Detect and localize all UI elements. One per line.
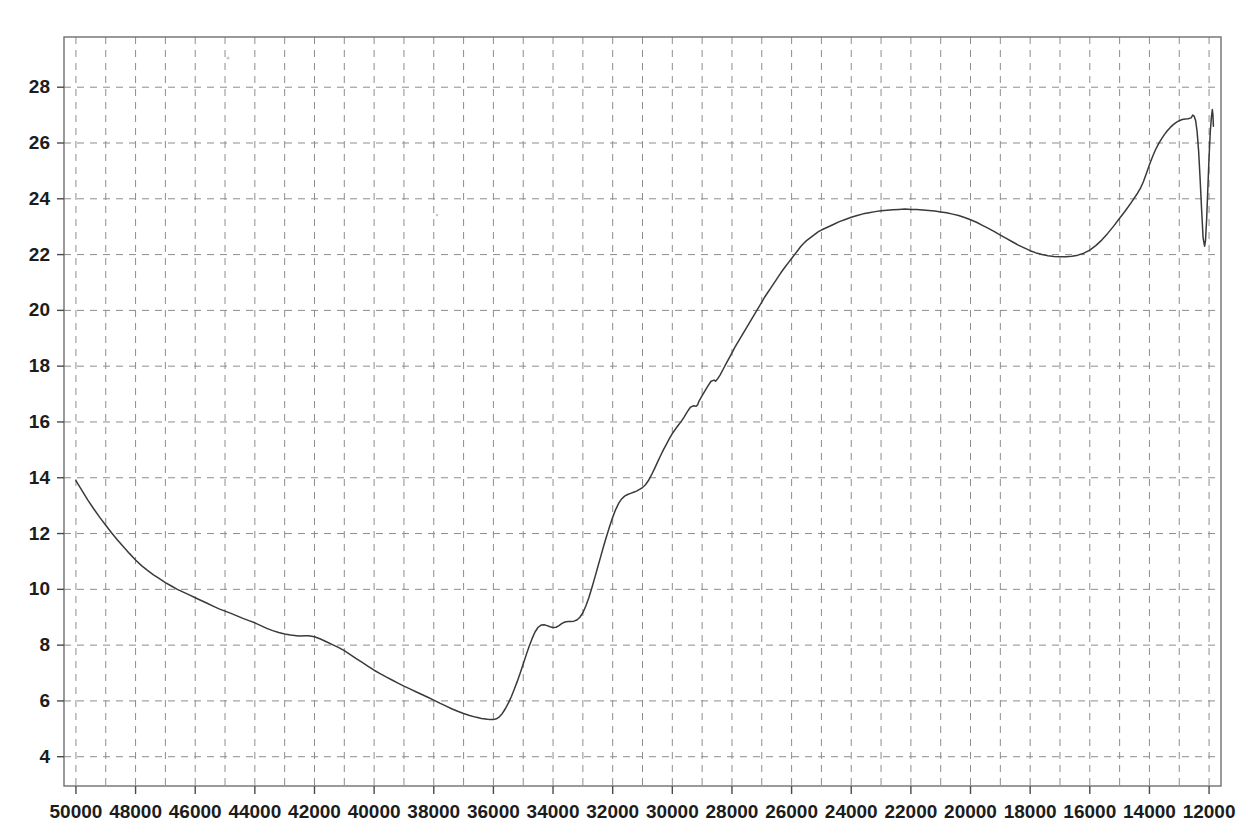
x-tick-label: 48000 (109, 801, 162, 822)
y-axis-tick-labels: 46810121416182022242628 (29, 76, 51, 766)
y-tick-label: 8 (39, 634, 50, 655)
y-tick-label: 26 (29, 132, 50, 153)
grid-lines-major-horizontal (64, 87, 1221, 756)
x-tick-label: 20000 (944, 801, 997, 822)
x-tick-label: 38000 (407, 801, 460, 822)
x-tick-label: 18000 (1004, 801, 1057, 822)
x-tick-label: 46000 (169, 801, 222, 822)
y-tick-label: 20 (29, 299, 50, 320)
x-axis-tick-labels: 5000048000460004400042000400003800036000… (50, 801, 1236, 822)
y-tick-label: 28 (29, 76, 50, 97)
y-tick-label: 10 (29, 578, 50, 599)
x-tick-label: 12000 (1183, 801, 1236, 822)
grid-lines-major-vertical (76, 37, 1209, 786)
data-series-line (76, 110, 1213, 720)
x-tick-label: 32000 (586, 801, 639, 822)
x-axis-ticks (76, 786, 1209, 794)
grid-lines-minor-vertical (106, 37, 1180, 786)
y-tick-label: 16 (29, 411, 50, 432)
x-tick-label: 36000 (467, 801, 520, 822)
y-tick-label: 18 (29, 355, 50, 376)
y-tick-label: 22 (29, 244, 50, 265)
y-tick-label: 4 (39, 746, 50, 767)
x-tick-label: 24000 (825, 801, 878, 822)
scan-speck (436, 214, 439, 217)
x-tick-label: 22000 (884, 801, 937, 822)
x-tick-label: 40000 (348, 801, 401, 822)
scan-speck (226, 56, 229, 59)
x-tick-label: 44000 (228, 801, 281, 822)
x-tick-label: 26000 (765, 801, 818, 822)
y-axis-ticks (57, 87, 64, 756)
chart-container: 46810121416182022242628 5000048000460004… (0, 0, 1248, 839)
y-tick-label: 24 (29, 188, 51, 209)
x-tick-label: 50000 (50, 801, 103, 822)
x-tick-label: 42000 (288, 801, 341, 822)
x-tick-label: 34000 (527, 801, 580, 822)
x-tick-label: 16000 (1063, 801, 1116, 822)
spectrum-line-chart: 46810121416182022242628 5000048000460004… (0, 0, 1248, 839)
y-tick-label: 14 (29, 467, 51, 488)
x-tick-label: 30000 (646, 801, 699, 822)
plot-frame (64, 37, 1221, 786)
x-tick-label: 14000 (1123, 801, 1176, 822)
y-tick-label: 12 (29, 523, 50, 544)
y-tick-label: 6 (39, 690, 50, 711)
x-tick-label: 28000 (706, 801, 759, 822)
